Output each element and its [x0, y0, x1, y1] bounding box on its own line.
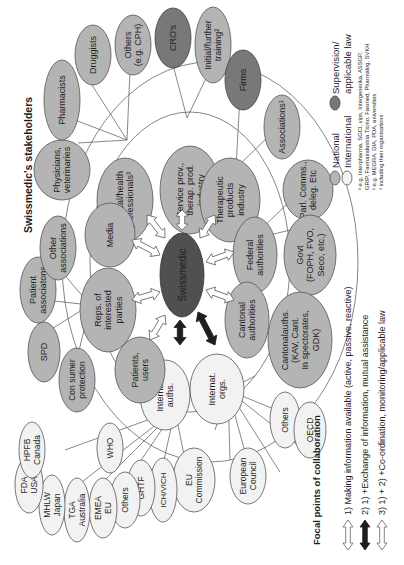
node-physicians: Physicians,veterinaries	[34, 140, 90, 200]
node-label-line: parties	[114, 296, 124, 324]
collaboration-item: 1) Making information available (active,…	[343, 286, 353, 515]
node-label: Firms	[238, 68, 248, 91]
node-label-line: Media	[105, 223, 115, 248]
node-label-line: veterinaries	[62, 146, 72, 193]
legend-supervision-swatch	[330, 96, 340, 110]
node-label: Druggists	[88, 35, 98, 74]
node-label-line: training²	[213, 29, 223, 62]
node-label: Others	[280, 407, 290, 433]
node-label: HPFBCanada	[22, 435, 42, 465]
node-firms: Firms	[225, 50, 261, 110]
node-label-line: Physicians,	[52, 147, 62, 193]
node-label: EuropeanCouncil	[238, 457, 258, 494]
node-govt: Govt(FOPH, FVO,Seco, etc.)	[284, 215, 336, 295]
node-label-line: Con sumer	[67, 359, 77, 401]
node-label: Parl. Comms.,deleg. Etc	[298, 161, 318, 218]
node-label-line: TGA	[67, 501, 77, 519]
node-eu-commission: EUCommission	[173, 448, 215, 512]
node-label-line: Council	[248, 462, 258, 490]
node-label-line: EU	[103, 502, 113, 514]
node-label-line: WHO	[105, 437, 115, 458]
collaboration-arrow-key	[360, 520, 370, 550]
node-label-line: authorities	[255, 234, 265, 276]
legend-international-label: International	[342, 116, 353, 168]
collaboration-arrow	[193, 309, 221, 347]
node-label-line: Pharmacists	[57, 75, 67, 125]
node-label-line: Others	[120, 487, 130, 513]
node-label-line: products	[225, 182, 235, 217]
connector-line	[75, 120, 127, 140]
node-label-line: Govt	[295, 245, 305, 265]
node-european-council: EuropeanCouncil	[230, 448, 266, 504]
footnote: ³ including their organisations	[378, 114, 384, 190]
node-label: CRO's	[168, 24, 178, 51]
node-label-line: MHLW	[42, 492, 52, 517]
footnote: GRIP, Farmaindustria Ticino, Fasmed, Pha…	[364, 44, 370, 190]
node-cantonal: Cantonalauthorities	[225, 282, 269, 358]
collaboration-arrow	[174, 320, 186, 345]
node-other-assoc: Otherassociations	[40, 216, 76, 280]
node-label-line: Others	[123, 31, 133, 59]
node-cantonal-auths: Cantonalauths.(KAV, Cant.In spectorates,…	[268, 292, 332, 388]
node-label-line: SPD	[39, 342, 49, 361]
node-label-line: Internat.	[207, 372, 217, 405]
node-internat-orgs: Internat.orgs.	[190, 354, 244, 424]
node-label: Media	[105, 223, 115, 248]
node-label-line: Australia	[77, 493, 87, 526]
connector-line	[78, 140, 127, 143]
node-label-line: European	[238, 457, 248, 494]
node-label-line: Seco, etc.)	[316, 233, 326, 276]
node-label: FDAUSA	[19, 476, 39, 494]
legend-national-label: National	[330, 133, 341, 168]
node-label-line: Service prov.,	[175, 163, 185, 217]
node-label-line: EMEA	[93, 496, 103, 520]
node-label-line: HPFB	[22, 438, 32, 461]
node-associations: Associations¹	[264, 95, 300, 159]
node-label: SPD	[39, 342, 49, 361]
node-pharmacists: Pharmacists	[44, 60, 80, 140]
node-label: Associations¹	[277, 100, 287, 154]
node-label-line: Canada	[32, 435, 42, 465]
collaboration-item: 3) 1) + 2) +Co-ordination, monitoring/ap…	[377, 310, 387, 515]
node-label: Pharmacists	[57, 75, 67, 125]
node-media: Media	[85, 203, 135, 267]
node-federal: Federalauthorities	[233, 217, 277, 293]
node-label-line: Federal	[245, 240, 255, 271]
connector-line	[127, 70, 130, 140]
node-reps: Reps. ofinterestedparties	[80, 268, 136, 352]
node-others-cph: Others(e.g. CPH)	[115, 15, 151, 75]
legend: NationalInternationalSupervision/applica…	[330, 34, 384, 190]
node-spd: SPD	[28, 322, 60, 382]
node-label-line: Firms	[238, 68, 248, 91]
node-label: Physicians,veterinaries	[52, 146, 72, 193]
node-patients: Patients,users	[115, 337, 165, 403]
node-label-line: Japan	[52, 493, 62, 516]
node-label-line: industry	[236, 184, 246, 216]
node-label: ICH/VICH	[159, 472, 168, 507]
node-label-line: In spectorates,	[300, 310, 310, 369]
collaboration-item: 2) 1) +Exchange of information, mutual a…	[360, 315, 370, 515]
node-label-line: USA	[29, 476, 39, 494]
node-label-line: orgs.	[217, 379, 227, 399]
node-label-line: associations	[58, 223, 68, 273]
legend-national-swatch	[330, 171, 340, 185]
node-label-line: Others	[280, 407, 290, 433]
node-label: Con sumerprotection	[67, 359, 87, 401]
node-label-line: protection	[77, 361, 87, 399]
node-label-line: Therapeutic	[215, 176, 225, 224]
node-cros: CRO's	[155, 8, 191, 68]
diagram-title: Swissmedic's stakeholders	[22, 97, 34, 233]
legend-supervision-label: applicable law	[342, 34, 353, 94]
node-label-line: Commission	[194, 456, 204, 503]
node-label-line: Cantonal	[237, 302, 247, 338]
node-label-line: EU	[184, 474, 194, 486]
node-hpfb: HPFBCanada	[19, 422, 45, 478]
footnote: ¹ e.g. Interpharma, SGCI, vips, Intergen…	[357, 52, 363, 190]
node-label-line: Reps. of	[93, 293, 103, 327]
node-label-line: Associations¹	[277, 100, 287, 154]
node-tga: TGAAustralia	[64, 478, 90, 542]
node-label: WHO	[105, 437, 115, 458]
node-label: Federalauthorities	[245, 234, 265, 276]
node-who: WHO	[97, 423, 123, 473]
node-label: Cantonalauthorities	[237, 299, 257, 341]
